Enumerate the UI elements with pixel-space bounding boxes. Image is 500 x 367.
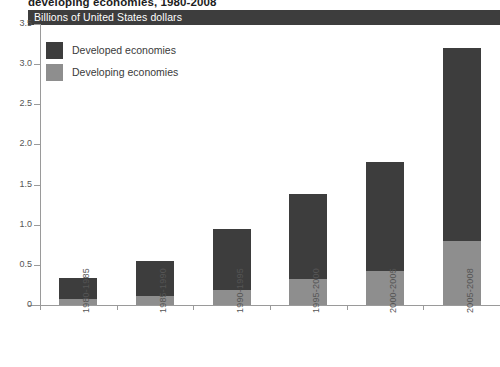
legend-item-developing: Developing economies — [46, 62, 178, 82]
y-axis-label-text: 1.0 — [4, 220, 32, 229]
y-axis-tick — [34, 64, 40, 65]
chart-page: developing economies, 1980-2008 Billions… — [0, 0, 500, 367]
y-axis-tick — [34, 144, 40, 145]
y-axis-label-text: 3.5 — [4, 19, 32, 28]
bar-segment — [59, 299, 97, 305]
x-axis-label: 2005-2008 — [466, 233, 475, 313]
x-axis-tick — [117, 305, 118, 310]
x-axis-label: 2000-2005 — [389, 233, 398, 313]
x-axis-label: 1985-1990 — [159, 233, 168, 313]
bar-segment — [59, 278, 97, 299]
bar-segment — [443, 241, 481, 305]
y-axis-label: 1.5 — [0, 180, 32, 189]
y-axis-label-text: 0.5 — [4, 260, 32, 269]
legend-swatch-icon — [46, 42, 63, 59]
x-axis-tick — [347, 305, 348, 310]
y-axis-tick — [34, 225, 40, 226]
bar-segment — [289, 194, 327, 279]
y-axis-label-text: 3.0 — [4, 59, 32, 68]
legend-item-label: Developed economies — [72, 44, 176, 56]
legend-item-developed: Developed economies — [46, 40, 178, 60]
chart-legend: Developed economiesDeveloping economies — [46, 40, 178, 84]
y-axis-label-text: 2.0 — [4, 139, 32, 148]
y-axis-tick — [34, 104, 40, 105]
x-axis-line — [28, 305, 500, 306]
y-axis-label-text: 0 — [4, 300, 32, 309]
y-axis-line — [40, 24, 41, 306]
bar-segment — [366, 271, 404, 305]
bar-segment — [213, 290, 251, 305]
y-axis-label: 0.5 — [0, 260, 32, 269]
x-axis-tick — [193, 305, 194, 310]
y-axis-label: 3.5 — [0, 19, 32, 28]
x-axis-tick — [40, 305, 41, 310]
bar-segment — [366, 162, 404, 271]
y-axis-label-text: 2.5 — [4, 99, 32, 108]
units-header-band: Billions of United States dollars — [28, 10, 500, 25]
x-axis-label: 1995-2000 — [312, 233, 321, 313]
bar-segment — [443, 48, 481, 241]
y-axis-label: 2.5 — [0, 99, 32, 108]
y-axis-label-text: 1.5 — [4, 180, 32, 189]
chart-title: developing economies, 1980-2008 — [28, 0, 488, 9]
bar-segment — [213, 229, 251, 290]
y-axis-label: 3.0 — [0, 59, 32, 68]
legend-item-label: Developing economies — [72, 66, 178, 78]
bar-segment — [136, 261, 174, 296]
y-axis-label: 2.0 — [0, 139, 32, 148]
bar-segment — [289, 279, 327, 305]
y-axis-tick — [34, 24, 40, 25]
legend-swatch-icon — [46, 64, 63, 81]
chart-title-text: developing economies, 1980-2008 — [28, 0, 488, 9]
y-axis-label: 1.0 — [0, 220, 32, 229]
units-header-label: Billions of United States dollars — [34, 11, 182, 24]
x-axis-label: 1980-1985 — [82, 233, 91, 313]
y-axis-tick — [34, 185, 40, 186]
x-axis-tick — [423, 305, 424, 310]
x-axis-label: 1990-1995 — [236, 233, 245, 313]
y-axis-tick — [34, 265, 40, 266]
bar-segment — [136, 296, 174, 305]
y-axis-label: 0 — [0, 300, 32, 309]
x-axis-tick — [270, 305, 271, 310]
